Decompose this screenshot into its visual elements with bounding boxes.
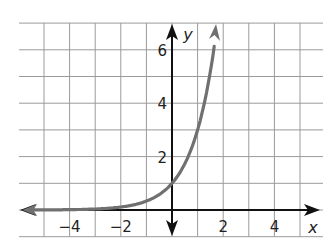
- y-tick-label: 2: [157, 149, 167, 167]
- tick-labels: −4−224246xy: [59, 25, 319, 237]
- curve-top-arrow-icon: [209, 24, 220, 41]
- y-tick-label: 4: [157, 95, 167, 113]
- exponential-graph: −4−224246xy: [0, 0, 323, 247]
- x-axis-label: x: [307, 218, 318, 237]
- x-tick-label: 2: [218, 218, 228, 236]
- x-tick-label: −4: [59, 218, 81, 236]
- x-tick-label: 4: [270, 218, 280, 236]
- y-tick-label: 6: [157, 42, 167, 60]
- curve-line: [31, 46, 214, 210]
- x-tick-label: −2: [110, 218, 132, 236]
- y-axis-label: y: [182, 25, 193, 44]
